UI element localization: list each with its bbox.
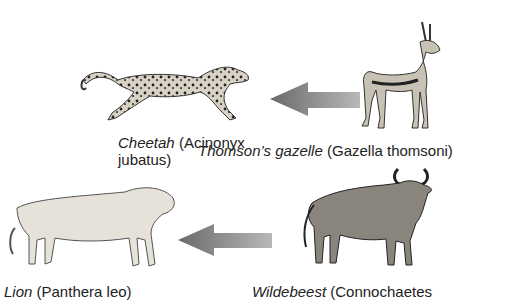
wildebeest-illustration bbox=[300, 165, 440, 273]
wildebeest-label: Wildebeest (Connochaetes bbox=[252, 283, 432, 300]
common-name: Cheetah bbox=[118, 134, 175, 151]
common-name: Thomson’s gazelle bbox=[198, 142, 323, 159]
common-name: Wildebeest bbox=[252, 283, 326, 300]
arrow-left-icon bbox=[268, 80, 363, 118]
scientific-name: (Gazella thomsoni) bbox=[327, 142, 453, 159]
lion-illustration bbox=[5, 178, 180, 273]
gazelle-label: Thomson’s gazelle (Gazella thomsoni) bbox=[198, 142, 453, 159]
cheetah-label-line2: jubatus) bbox=[118, 151, 171, 168]
lion-label: Lion (Panthera leo) bbox=[4, 283, 132, 300]
cheetah-illustration bbox=[78, 58, 253, 128]
arrow-left-icon bbox=[176, 222, 274, 258]
scientific-name: (Panthera leo) bbox=[37, 283, 132, 300]
scientific-name-cont: jubatus) bbox=[118, 151, 171, 168]
scientific-name: (Connochaetes bbox=[330, 283, 432, 300]
gazelle-illustration bbox=[350, 20, 460, 135]
common-name: Lion bbox=[4, 283, 32, 300]
